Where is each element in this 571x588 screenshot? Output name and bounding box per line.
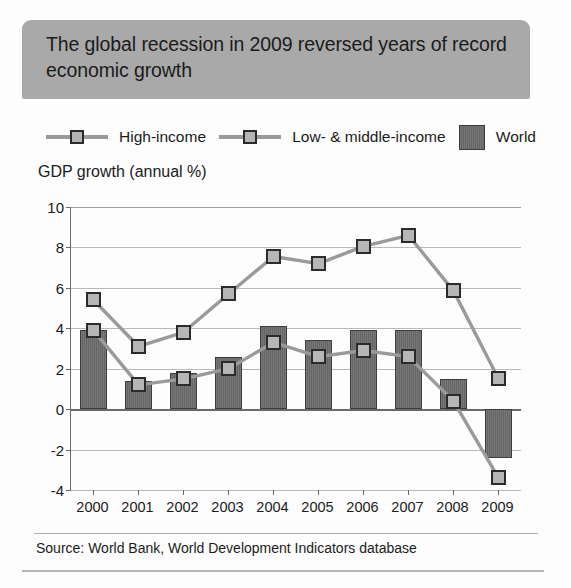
legend-item-high-income[interactable]: High-income [46, 128, 206, 146]
chart-legend: High-income Low- & middle-income World [46, 124, 536, 150]
x-axis-tick-mark [183, 490, 184, 495]
x-axis-tick-label: 2003 [211, 499, 243, 515]
marker-high-income-2009 [491, 470, 506, 485]
marker-low-middle-income-2007 [401, 228, 416, 243]
y-axis-tick-label: 8 [56, 239, 64, 256]
x-axis-tick-label: 2000 [76, 499, 108, 515]
x-axis-tick-label: 2009 [481, 499, 513, 515]
legend-label-high-income: High-income [119, 128, 206, 146]
x-axis-tick-label: 2007 [391, 499, 423, 515]
x-axis: 2000200120022003200420052006200720082009 [70, 490, 520, 516]
marker-low-middle-income-2005 [311, 256, 326, 271]
marker-low-middle-income-2004 [266, 249, 281, 264]
marker-high-income-2007 [401, 349, 416, 364]
marker-high-income-2004 [266, 335, 281, 350]
x-axis-tick-mark [408, 490, 409, 495]
x-axis-tick-label: 2008 [436, 499, 468, 515]
chart-title: The global recession in 2009 reversed ye… [46, 31, 512, 83]
legend-line-marker-icon [219, 135, 281, 139]
legend-item-world[interactable]: World [459, 125, 536, 150]
marker-high-income-2000 [86, 323, 101, 338]
legend-label-low-middle-income: Low- & middle-income [292, 128, 445, 146]
y-axis-tick-label: -2 [51, 441, 64, 458]
x-axis-tick-label: 2005 [301, 499, 333, 515]
x-axis-tick-label: 2006 [346, 499, 378, 515]
source-note: Source: World Bank, World Development In… [36, 540, 417, 556]
y-axis-tick-label: 4 [56, 320, 64, 337]
x-axis-tick-mark [273, 490, 274, 495]
legend-label-world: World [496, 128, 536, 146]
x-axis-tick-mark [93, 490, 94, 495]
marker-low-middle-income-2002 [176, 325, 191, 340]
marker-low-middle-income-2003 [221, 286, 236, 301]
chart-figure: The global recession in 2009 reversed ye… [0, 0, 571, 588]
marker-high-income-2005 [311, 349, 326, 364]
marker-low-middle-income-2009 [491, 371, 506, 386]
line-low-middle-income [94, 235, 499, 379]
x-axis-tick-label: 2001 [121, 499, 153, 515]
marker-low-middle-income-2008 [446, 283, 461, 298]
x-axis-tick-mark [453, 490, 454, 495]
x-axis-tick-mark [318, 490, 319, 495]
x-axis-tick-label: 2002 [166, 499, 198, 515]
marker-high-income-2008 [446, 394, 461, 409]
line-high-income [94, 330, 499, 478]
legend-item-low-middle-income[interactable]: Low- & middle-income [219, 128, 445, 146]
plot-area: 1086420-2-4 [70, 207, 521, 490]
source-divider [34, 533, 538, 534]
y-axis-tick-label: 6 [56, 279, 64, 296]
marker-high-income-2003 [221, 361, 236, 376]
x-axis-tick-label: 2004 [256, 499, 288, 515]
marker-high-income-2006 [356, 343, 371, 358]
x-axis-tick-mark [138, 490, 139, 495]
marker-low-middle-income-2000 [86, 292, 101, 307]
bottom-divider [22, 570, 544, 572]
x-axis-tick-mark [498, 490, 499, 495]
y-axis-tick-label: -4 [51, 482, 64, 499]
legend-bar-swatch-icon [459, 125, 485, 150]
marker-low-middle-income-2001 [131, 339, 146, 354]
x-axis-tick-mark [363, 490, 364, 495]
marker-high-income-2001 [131, 377, 146, 392]
marker-low-middle-income-2006 [356, 239, 371, 254]
legend-line-marker-icon [46, 135, 108, 139]
title-banner: The global recession in 2009 reversed ye… [22, 20, 530, 99]
y-axis-tick-label: 0 [56, 401, 64, 418]
y-axis-title: GDP growth (annual %) [38, 163, 207, 181]
y-axis-tick-label: 2 [56, 360, 64, 377]
y-axis-tick-label: 10 [47, 199, 64, 216]
x-axis-tick-mark [228, 490, 229, 495]
marker-high-income-2002 [176, 371, 191, 386]
